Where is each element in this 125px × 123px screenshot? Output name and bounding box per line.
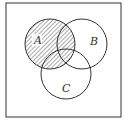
- set-a-label: A: [33, 34, 42, 47]
- venn-diagram: A B C: [0, 0, 125, 123]
- set-c-label: C: [62, 82, 71, 95]
- set-b-label: B: [89, 35, 98, 48]
